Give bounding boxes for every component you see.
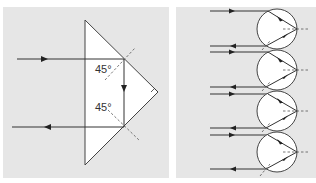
right-panel-spheres <box>176 7 316 178</box>
angle-label-1: 45° <box>95 63 112 75</box>
angle-label-2: 45° <box>95 101 112 113</box>
left-panel-prism: 45° 45° <box>3 7 169 178</box>
optics-figure: 45° 45° <box>0 0 316 183</box>
